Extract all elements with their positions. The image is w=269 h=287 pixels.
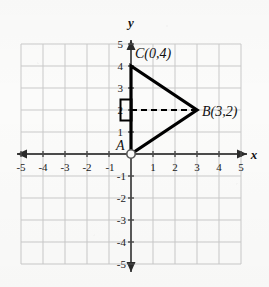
x-tick-label: -4 xyxy=(38,161,48,173)
x-axis-arrow-left xyxy=(17,150,27,159)
y-tick-label: -1 xyxy=(117,170,126,182)
point-a-marker xyxy=(127,150,135,158)
y-tick-label: 4 xyxy=(118,60,124,72)
x-tick-label: -2 xyxy=(82,161,91,173)
x-tick-label: 1 xyxy=(150,161,156,173)
y-tick-label: -3 xyxy=(117,214,127,226)
vertex-label-c: C(0,4) xyxy=(135,46,172,62)
y-tick-label: 3 xyxy=(118,82,124,94)
y-tick-label: -5 xyxy=(117,258,127,270)
x-tick-label: 2 xyxy=(172,161,178,173)
y-tick-label: -4 xyxy=(117,236,127,248)
y-tick-label: -2 xyxy=(117,192,126,204)
x-axis-arrow-right xyxy=(237,150,247,159)
x-tick-label: -5 xyxy=(16,161,26,173)
x-tick-label: 3 xyxy=(194,161,200,173)
x-tick-label: 4 xyxy=(216,161,222,173)
y-axis-label: y xyxy=(126,15,134,30)
vertex-label-b: B(3,2) xyxy=(202,104,238,120)
y-tick-label: 5 xyxy=(118,38,124,50)
x-tick-label: -1 xyxy=(105,161,114,173)
x-axis-label: x xyxy=(250,147,258,162)
x-tick-label: 5 xyxy=(238,161,244,173)
coordinate-plane-svg: -5 -4 -3 -2 -1 1 2 3 4 5 5 4 3 2 1 -1 -2… xyxy=(0,0,269,287)
vertex-label-a: A xyxy=(115,138,125,153)
x-tick-label: -3 xyxy=(60,161,70,173)
figure-canvas: -5 -4 -3 -2 -1 1 2 3 4 5 5 4 3 2 1 -1 -2… xyxy=(0,0,269,287)
y-tick-label: 1 xyxy=(118,126,124,138)
